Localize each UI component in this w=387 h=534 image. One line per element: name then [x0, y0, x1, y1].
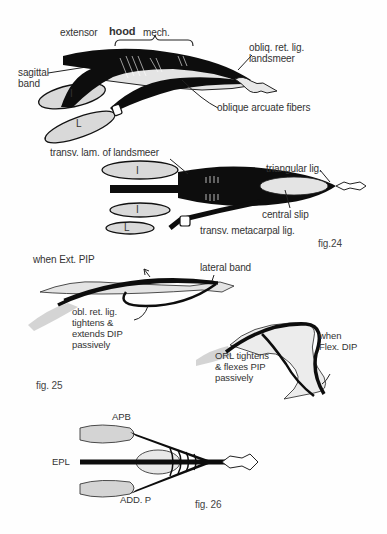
label-interosseous-top: I: [136, 165, 139, 176]
label-obl-ret-lig-extends: obl. ret. lig. tightens & extends DIP pa…: [72, 306, 123, 350]
label-lateral-band: lateral band: [200, 262, 251, 273]
label-lumbrical-dorsal: L: [124, 222, 129, 233]
fig24-dorsal-drawing: [102, 159, 366, 234]
label-central-slip: central slip: [262, 209, 309, 220]
label-interosseous: I: [70, 88, 73, 99]
label-apb: APB: [112, 411, 131, 422]
label-oblique-arcuate-fibers: oblique arcuate fibers: [217, 102, 310, 113]
label-transv-lam: transv. lam. of landsmeer: [50, 147, 159, 158]
label-obliq-ret-lig: obliq. ret. lig. landsmeer: [249, 42, 304, 64]
fig26-caption: fig. 26: [195, 499, 222, 510]
label-orl-tightens: ORL tightens & flexes PIP passively: [215, 350, 269, 383]
label-sagittal-band: sagittal band: [18, 67, 49, 89]
label-hood: hood: [109, 26, 135, 37]
label-interosseous-bottom: I: [136, 204, 139, 215]
fig25-caption: fig. 25: [36, 380, 63, 391]
label-transv-metacarpal-lig: transv. metacarpal lig.: [200, 225, 295, 236]
fig26-drawing: [80, 425, 258, 497]
label-triangular-lig: triangular lig.: [266, 163, 322, 174]
anatomy-illustration: [0, 0, 387, 534]
label-lumbrical: L: [76, 118, 81, 129]
anatomy-page: extensor hood mech. sagittal band obliq.…: [0, 0, 387, 534]
label-when-ext-pip: when Ext. PIP: [33, 254, 95, 265]
label-add-p: ADD. P: [120, 494, 151, 505]
label-when-flex-dip: when Flex. DIP: [319, 330, 357, 352]
label-extensor: extensor: [60, 27, 98, 38]
label-epl: EPL: [52, 456, 70, 467]
fig24-caption: fig.24: [318, 238, 342, 249]
label-mech: mech.: [143, 27, 170, 38]
